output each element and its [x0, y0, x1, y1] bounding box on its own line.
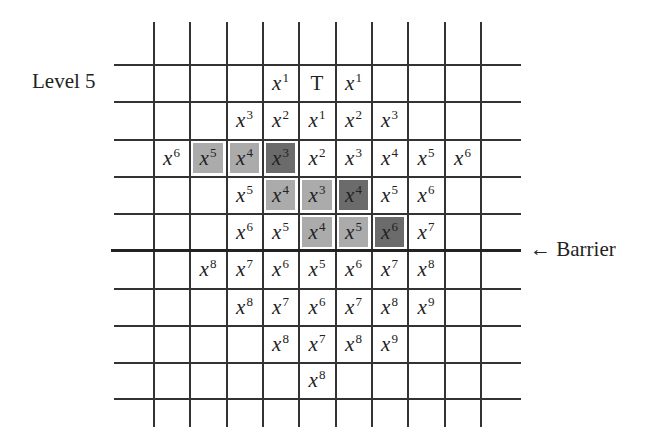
term-cell: x5 — [263, 214, 298, 250]
term-cell: x6 — [372, 214, 407, 250]
term-text: x1 — [309, 110, 326, 131]
term-text: x6 — [309, 297, 326, 318]
term-text: x7 — [381, 259, 398, 280]
grid-horizontal-line — [114, 398, 521, 400]
term-cell: x6 — [336, 251, 371, 288]
term-cell: x6 — [227, 214, 262, 250]
term-text: x4 — [345, 185, 362, 206]
term-cell: x8 — [336, 326, 371, 362]
term-text: x6 — [345, 259, 362, 280]
term-text: x4 — [236, 148, 253, 169]
term-text: x3 — [236, 110, 253, 131]
grid-vertical-line — [189, 22, 191, 427]
term-cell: x4 — [372, 140, 407, 176]
term-cell: x5 — [336, 214, 371, 250]
term-text: x5 — [272, 222, 289, 243]
term-cell: x8 — [372, 289, 407, 325]
target-cell: T — [299, 65, 335, 101]
term-cell: x4 — [299, 214, 335, 250]
term-text: x9 — [381, 334, 398, 355]
term-cell: x4 — [263, 177, 298, 213]
term-text: x3 — [309, 185, 326, 206]
term-text: x4 — [272, 185, 289, 206]
term-cell: x2 — [336, 102, 371, 139]
term-cell: x8 — [227, 289, 262, 325]
term-text: x8 — [309, 370, 326, 391]
term-cell: x1 — [299, 102, 335, 139]
term-text: x8 — [381, 297, 398, 318]
barrier-label: ← Barrier — [530, 237, 616, 262]
term-text: x3 — [345, 148, 362, 169]
term-text: x4 — [309, 222, 326, 243]
term-text: x3 — [272, 148, 289, 169]
term-text: x9 — [418, 297, 435, 318]
term-cell: x3 — [263, 140, 298, 176]
term-cell: x6 — [263, 251, 298, 288]
term-cell: x2 — [299, 140, 335, 176]
term-text: x8 — [236, 297, 253, 318]
term-text: x8 — [418, 259, 435, 280]
term-cell: x7 — [372, 251, 407, 288]
term-text: x2 — [272, 110, 289, 131]
term-text: x7 — [236, 259, 253, 280]
term-text: x6 — [381, 222, 398, 243]
term-cell: x1 — [263, 65, 298, 101]
term-cell: x5 — [227, 177, 262, 213]
term-cell: x7 — [408, 214, 444, 250]
term-cell: x6 — [408, 177, 444, 213]
term-cell: x2 — [263, 102, 298, 139]
term-cell: x7 — [299, 326, 335, 362]
term-cell: x8 — [408, 251, 444, 288]
term-cell: x5 — [299, 251, 335, 288]
term-cell: x8 — [190, 251, 226, 288]
term-text: x5 — [381, 185, 398, 206]
term-text: x2 — [345, 110, 362, 131]
term-text: x5 — [236, 185, 253, 206]
level-label: Level 5 — [32, 69, 96, 94]
term-cell: x3 — [372, 102, 407, 139]
term-text: x1 — [345, 73, 362, 94]
term-text: x8 — [272, 334, 289, 355]
term-cell: x6 — [299, 289, 335, 325]
term-text: x6 — [163, 148, 180, 169]
term-text: x3 — [381, 110, 398, 131]
term-cell: x4 — [227, 140, 262, 176]
term-text: x6 — [418, 185, 435, 206]
term-cell: x1 — [336, 65, 371, 101]
term-cell: x7 — [336, 289, 371, 325]
term-cell: x7 — [227, 251, 262, 288]
term-cell: x7 — [263, 289, 298, 325]
term-text: x7 — [345, 297, 362, 318]
term-cell: x6 — [445, 140, 480, 176]
term-cell: x6 — [154, 140, 189, 176]
term-text: x4 — [381, 148, 398, 169]
term-cell: x3 — [299, 177, 335, 213]
term-text: x7 — [309, 334, 326, 355]
term-text: x7 — [272, 297, 289, 318]
term-cell: x5 — [372, 177, 407, 213]
term-cell: x4 — [336, 177, 371, 213]
term-cell: x3 — [336, 140, 371, 176]
term-cell: x3 — [227, 102, 262, 139]
term-text: x6 — [272, 259, 289, 280]
term-cell: x8 — [299, 363, 335, 398]
term-cell: x9 — [372, 326, 407, 362]
term-text: x8 — [200, 259, 217, 280]
term-text: x6 — [454, 148, 471, 169]
grid-vertical-line — [444, 22, 446, 427]
grid-vertical-line — [153, 22, 155, 427]
term-cell: x5 — [190, 140, 226, 176]
term-text: x7 — [418, 222, 435, 243]
term-cell: x5 — [408, 140, 444, 176]
term-text: x5 — [200, 148, 217, 169]
term-cell: x8 — [263, 326, 298, 362]
term-text: x2 — [309, 148, 326, 169]
term-text: x5 — [418, 148, 435, 169]
term-text: x5 — [309, 259, 326, 280]
term-cell: x9 — [408, 289, 444, 325]
term-text: x5 — [345, 222, 362, 243]
term-text: x6 — [236, 222, 253, 243]
grid-vertical-line — [480, 22, 482, 427]
term-text: x1 — [272, 73, 289, 94]
term-text: T — [311, 73, 324, 94]
